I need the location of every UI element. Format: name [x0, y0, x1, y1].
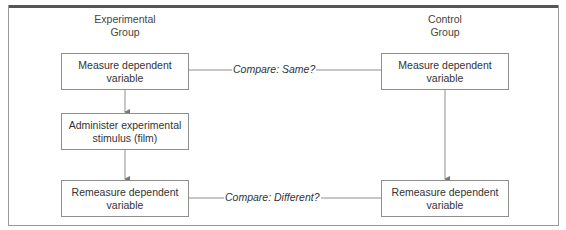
exp-remeasure-line1: Remeasure dependent [72, 186, 179, 199]
exp-measure-box: Measure dependent variable [61, 53, 189, 90]
ctrl-measure-box: Measure dependent variable [381, 53, 509, 90]
exp-measure-line2: variable [78, 72, 171, 85]
control-group-label-line2: Group [395, 26, 495, 39]
control-group-label: Control Group [395, 13, 495, 39]
exp-measure-line1: Measure dependent [78, 59, 171, 72]
exp-administer-line1: Administer experimental [69, 119, 182, 132]
experimental-group-label-line1: Experimental [75, 13, 175, 26]
compare-same-label: Compare: Same? [232, 63, 316, 75]
exp-remeasure-line2: variable [72, 199, 179, 212]
ctrl-remeasure-line1: Remeasure dependent [392, 186, 499, 199]
ctrl-measure-line1: Measure dependent [398, 59, 491, 72]
exp-administer-line2: stimulus (film) [69, 132, 182, 145]
ctrl-measure-line2: variable [398, 72, 491, 85]
control-group-label-line1: Control [395, 13, 495, 26]
exp-remeasure-box: Remeasure dependent variable [61, 180, 189, 217]
experimental-group-label: Experimental Group [75, 13, 175, 39]
experimental-group-label-line2: Group [75, 26, 175, 39]
exp-administer-box: Administer experimental stimulus (film) [61, 113, 189, 150]
compare-different-label: Compare: Different? [224, 191, 321, 203]
ctrl-remeasure-line2: variable [392, 199, 499, 212]
ctrl-remeasure-box: Remeasure dependent variable [381, 180, 509, 217]
